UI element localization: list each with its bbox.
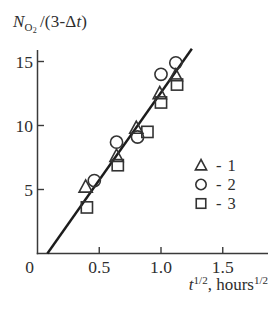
x-axis-label: t1/2, hours1/2 [189,274,268,295]
data-point-circle [110,136,122,148]
legend-label: - 2 [216,175,237,195]
xlabel-exponent-2: 1/2 [254,274,268,286]
data-point-square [196,199,206,209]
legend-item-2: - 2 [191,175,237,194]
legend-item-1: - 1 [191,156,237,175]
plot-area: 00.51.01.551015 [0,0,280,309]
legend-marker-circle-icon [191,176,211,193]
figure: NO2/(3-Δt) 00.51.01.551015 - 1- 2- 3 t1/… [0,0,280,309]
x-tick-label: 0.5 [88,257,110,277]
x-tick-label: 0 [25,257,34,277]
y-tick-label: 5 [24,180,33,200]
xlabel-exponent-1: 1/2 [194,274,208,286]
y-tick-label: 10 [16,116,34,136]
data-point-circle [196,179,206,189]
y-tick-label: 15 [16,52,34,72]
legend: - 1- 2- 3 [191,156,237,213]
data-point-circle [155,68,167,80]
x-tick-label: 1.0 [150,257,172,277]
legend-marker-square-icon [191,195,211,212]
xlabel-units: , hours [208,275,254,294]
legend-label: - 3 [216,194,237,214]
data-point-triangle [195,160,206,170]
legend-item-3: - 3 [191,194,237,213]
legend-marker-triangle-icon [191,157,211,174]
legend-label: - 1 [216,156,237,176]
